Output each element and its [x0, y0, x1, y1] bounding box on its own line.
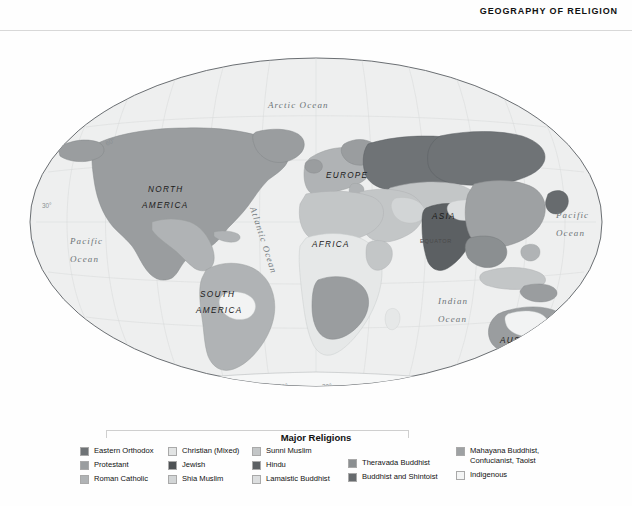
legend-label-lamaistic-buddhist: Lamaistic Buddhist	[266, 474, 330, 484]
legend-item-christian-mixed[interactable]: Christian (Mixed)	[168, 446, 252, 457]
legend-item-theravada-buddhist[interactable]: Theravada Buddhist	[348, 458, 456, 469]
legend-swatch-sunni-muslim	[252, 447, 261, 456]
longitude-label-120e: 120°	[534, 383, 548, 390]
ocean-label-pacific-east-line1: Pacific	[555, 210, 589, 220]
legend-label-protestant: Protestant	[94, 460, 129, 470]
legend-swatch-christian-mixed	[168, 447, 177, 456]
legend-swatch-theravada-buddhist	[348, 459, 357, 468]
legend-title: Major Religions	[0, 432, 632, 443]
legend-item-sunni-muslim[interactable]: Sunni Muslim	[252, 446, 348, 457]
continent-label-antarctica: ANTARCTICA	[289, 400, 354, 409]
continent-label-north-america-line1: NORTH	[148, 185, 183, 194]
legend-divider	[106, 430, 409, 431]
legend-item-buddhist-shintoist[interactable]: Buddhist and Shintoist	[348, 472, 456, 483]
legend-label-buddhist-shintoist: Buddhist and Shintoist	[362, 472, 438, 482]
longitude-label-120w: 120°	[190, 383, 204, 390]
latitude-label-30s: 30°	[42, 318, 52, 325]
landmass-new-zealand	[579, 342, 593, 356]
ocean-label-pacific-west-line2: Ocean	[70, 254, 99, 264]
longitude-label-150w: 150°	[148, 383, 162, 390]
continent-label-europe: EUROPE	[326, 171, 368, 180]
latitude-label-30n: 30°	[42, 202, 52, 209]
longitude-label-60e: 60°	[452, 383, 462, 390]
legend-column-1: Eastern Orthodox Protestant Roman Cathol…	[80, 446, 168, 488]
legend-swatch-jewish	[168, 461, 177, 470]
longitude-label-150e: 150°	[572, 383, 586, 390]
legend-item-lamaistic-buddhist[interactable]: Lamaistic Buddhist	[252, 474, 348, 485]
latitude-label-0: 0°	[28, 241, 35, 248]
legend-item-hindu[interactable]: Hindu	[252, 460, 348, 471]
ocean-label-pacific-west-line1: Pacific	[69, 236, 103, 246]
map-svg: Arctic Ocean Pacific Ocean Pacific Ocean…	[0, 32, 632, 432]
continent-label-south-america-line2: AMERICA	[195, 306, 242, 315]
legend-label-indigenous: Indigenous	[470, 470, 507, 480]
legend-column-4: Theravada Buddhist Buddhist and Shintois…	[348, 446, 456, 488]
continent-label-asia: ASIA	[431, 212, 456, 221]
legend-swatch-mahayana-buddhist	[456, 447, 465, 456]
legend-item-indigenous[interactable]: Indigenous	[456, 470, 576, 481]
legend-swatch-lamaistic-buddhist	[252, 475, 261, 484]
landmass-british-isles	[305, 160, 323, 174]
legend-swatch-buddhist-shintoist	[348, 473, 357, 482]
legend-label-sunni-muslim: Sunni Muslim	[266, 446, 312, 456]
legend-item-mahayana-buddhist[interactable]: Mahayana Buddhist, Confucianist, Taoist	[456, 446, 576, 467]
legend-swatch-eastern-orthodox	[80, 447, 89, 456]
continent-label-south-america-line1: SOUTH	[200, 290, 235, 299]
legend-label-roman-catholic: Roman Catholic	[94, 474, 148, 484]
legend-columns: Eastern Orthodox Protestant Roman Cathol…	[80, 446, 576, 488]
continent-label-australia: AUSTRALIA	[499, 336, 557, 345]
legend-column-2: Christian (Mixed) Jewish Shia Muslim	[168, 446, 252, 488]
page-root: GEOGRAPHY OF RELIGION	[0, 0, 632, 506]
longitude-label-30e: 30°	[408, 383, 418, 390]
legend-label-mahayana-buddhist: Mahayana Buddhist, Confucianist, Taoist	[470, 446, 539, 465]
landmass-philippines	[521, 244, 540, 261]
legend-column-5: Mahayana Buddhist, Confucianist, Taoist …	[456, 446, 576, 488]
legend-swatch-indigenous	[456, 471, 465, 480]
legend-label-christian-mixed: Christian (Mixed)	[182, 446, 239, 456]
legend-item-jewish[interactable]: Jewish	[168, 460, 252, 471]
legend-swatch-protestant	[80, 461, 89, 470]
landmass-antarctica	[34, 372, 600, 432]
legend-label-hindu: Hindu	[266, 460, 286, 470]
longitude-label-90w: 90°	[234, 383, 244, 390]
ocean-label-indian-line2: Ocean	[438, 314, 467, 324]
longitude-label-60w: 60°	[278, 383, 288, 390]
page-title: GEOGRAPHY OF RELIGION	[480, 6, 618, 16]
header-divider	[0, 30, 632, 31]
legend-label-eastern-orthodox: Eastern Orthodox	[94, 446, 154, 456]
longitude-label-90e: 90°	[494, 383, 504, 390]
ocean-label-arctic: Arctic Ocean	[267, 100, 329, 110]
legend-column-3: Sunni Muslim Hindu Lamaistic Buddhist	[252, 446, 348, 488]
ocean-label-indian-line1: Indian	[437, 296, 468, 306]
longitude-label-180: 60°	[110, 372, 122, 383]
map-legend: Major Religions Eastern Orthodox Protest…	[0, 430, 632, 506]
legend-swatch-hindu	[252, 461, 261, 470]
legend-swatch-roman-catholic	[80, 475, 89, 484]
legend-label-shia-muslim: Shia Muslim	[182, 474, 223, 484]
legend-item-shia-muslim[interactable]: Shia Muslim	[168, 474, 252, 485]
longitude-label-0: 0°	[368, 383, 375, 390]
legend-label-jewish: Jewish	[182, 460, 205, 470]
legend-label-theravada-buddhist: Theravada Buddhist	[362, 458, 430, 468]
ocean-label-pacific-east-line2: Ocean	[556, 228, 585, 238]
continent-label-north-america-line2: AMERICA	[141, 201, 188, 210]
legend-item-protestant[interactable]: Protestant	[80, 460, 168, 471]
legend-swatch-shia-muslim	[168, 475, 177, 484]
longitude-label-30w: 30°	[322, 383, 332, 390]
legend-item-eastern-orthodox[interactable]: Eastern Orthodox	[80, 446, 168, 457]
world-religion-map[interactable]: Arctic Ocean Pacific Ocean Pacific Ocean…	[0, 32, 632, 432]
equator-label: EQUATOR	[420, 238, 452, 244]
legend-item-roman-catholic[interactable]: Roman Catholic	[80, 474, 168, 485]
continent-label-africa: AFRICA	[311, 240, 350, 249]
